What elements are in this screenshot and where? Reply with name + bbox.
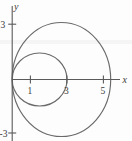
x-tick-label-5: 5 (101, 86, 106, 96)
y-tick-label-neg3: -3 (0, 129, 8, 139)
x-tick-label-1: 1 (28, 86, 33, 96)
polar-circles-figure: 1 3 5 3 -3 x y (0, 0, 132, 141)
y-axis-label: y (13, 1, 19, 12)
y-tick-label-3: 3 (1, 20, 6, 30)
figure-canvas: 1 3 5 3 -3 x y (0, 0, 132, 141)
x-axis-label: x (122, 74, 128, 85)
x-tick-label-3: 3 (64, 86, 69, 96)
